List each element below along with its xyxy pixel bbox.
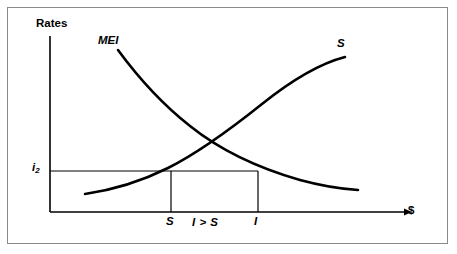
mei-curve xyxy=(118,50,358,190)
i-point-tick-label: I xyxy=(254,216,257,228)
s-point-tick-label: S xyxy=(166,216,174,228)
y-axis-label: Rates xyxy=(36,18,67,30)
chart-plot-area xyxy=(0,0,457,254)
s-curve-label: S xyxy=(337,38,345,50)
economics-chart-figure: Rates MEI S i2 S I > S I $ xyxy=(0,0,457,254)
mei-curve-label: MEI xyxy=(98,35,118,47)
disequilibrium-relation-label: I > S xyxy=(192,217,218,229)
i2-axis-tick-label: i2 xyxy=(32,162,40,174)
x-axis-label: $ xyxy=(408,205,414,217)
i2-subscript-text: 2 xyxy=(35,166,39,175)
s-curve xyxy=(85,57,345,194)
